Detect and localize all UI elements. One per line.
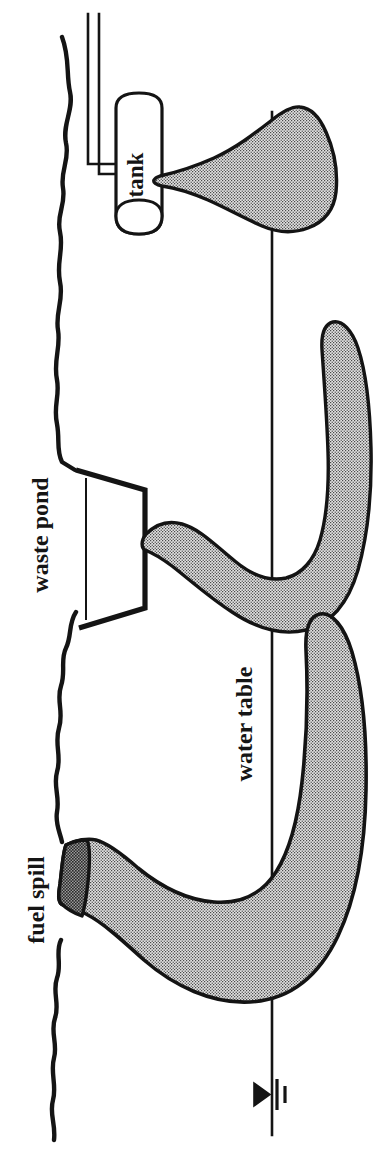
waste-pond-label: waste pond (27, 477, 53, 593)
water-table-label: water table (231, 666, 257, 781)
fuel-spill-label: fuel spill (23, 856, 49, 944)
figure-root: tank waste pond water table fuel spill (0, 0, 389, 1172)
cross-section-figure: tank waste pond water table fuel spill (0, 0, 389, 1172)
tank-label: tank (123, 152, 148, 197)
